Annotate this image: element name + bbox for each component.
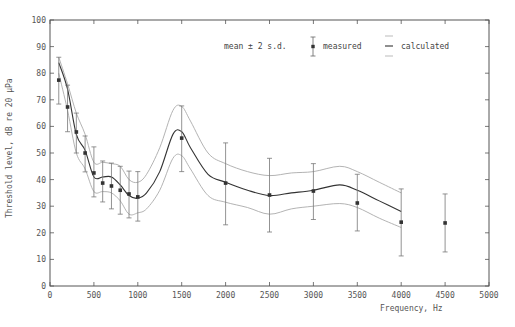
y-tick-label: 60 [36, 122, 46, 131]
x-tick-label: 2500 [260, 291, 279, 300]
measured-point [65, 85, 70, 132]
y-axis-label: Threshold level, dB re 20 μPa [5, 78, 14, 218]
x-tick-label: 3500 [348, 291, 367, 300]
measured-point [399, 189, 404, 256]
calculated-mean-line [59, 63, 401, 212]
legend: mean ± 2 s.d. measured calculated [224, 36, 449, 56]
x-tick-label: 500 [87, 291, 102, 300]
measured-point [91, 147, 96, 197]
y-axis: 0102030405060708090100 [32, 16, 489, 291]
y-tick-label: 100 [32, 16, 47, 25]
measured-point [179, 106, 184, 172]
x-axis: 0500100015002000250030003500400045005000 [48, 20, 499, 300]
legend-measured-icon [311, 37, 316, 56]
measured-point [267, 158, 272, 232]
x-tick-label: 1500 [172, 291, 191, 300]
x-axis-label: Frequency, Hz [380, 304, 443, 313]
measured-point [355, 174, 360, 231]
x-tick-label: 4000 [392, 291, 411, 300]
measured-point [109, 163, 114, 209]
y-tick-label: 10 [36, 255, 46, 264]
x-tick-label: 3000 [304, 291, 323, 300]
calculated-lower-band [59, 73, 401, 227]
calculated-upper-band [59, 57, 401, 193]
measured-point [100, 161, 105, 202]
x-tick-label: 0 [48, 291, 53, 300]
calculated-series [59, 57, 401, 227]
y-tick-label: 0 [41, 282, 46, 291]
legend-prefix: mean ± 2 s.d. [224, 42, 287, 51]
x-tick-label: 1000 [128, 291, 147, 300]
y-tick-label: 50 [36, 149, 46, 158]
measured-point [118, 166, 123, 214]
y-tick-label: 80 [36, 69, 46, 78]
x-tick-label: 2000 [216, 291, 235, 300]
measured-point [223, 143, 228, 225]
legend-measured-label: measured [323, 42, 362, 51]
plot-frame [50, 20, 489, 286]
y-tick-label: 40 [36, 176, 46, 185]
measured-point [56, 57, 61, 104]
threshold-chart: 0102030405060708090100 05001000150020002… [0, 0, 515, 327]
measured-point [443, 194, 448, 252]
measured-series [56, 57, 447, 256]
plot-border [50, 20, 489, 286]
y-tick-label: 70 [36, 96, 46, 105]
y-tick-label: 30 [36, 202, 46, 211]
y-tick-label: 20 [36, 229, 46, 238]
legend-calculated-icon [385, 36, 393, 56]
x-tick-label: 5000 [479, 291, 498, 300]
x-tick-label: 4500 [435, 291, 454, 300]
legend-calculated-label: calculated [401, 42, 449, 51]
y-tick-label: 90 [36, 43, 46, 52]
